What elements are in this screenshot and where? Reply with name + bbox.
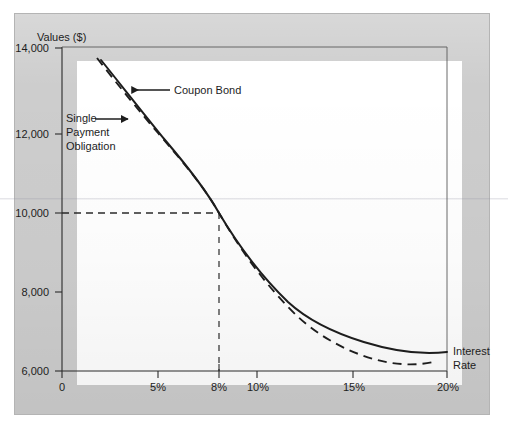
x-tick-label-20: 20% <box>430 381 466 394</box>
series-coupon-bond <box>101 60 447 353</box>
y-tick-label-8000: 8,000 <box>0 286 49 299</box>
chart-vector-overlay <box>0 0 508 436</box>
y-tick-label-10000: 10,000 <box>0 207 49 220</box>
x-tick-label-8: 8% <box>204 381 234 394</box>
annotation-spo-line3: Obligation <box>66 140 116 154</box>
annotation-spo-line2: Payment <box>66 126 109 140</box>
x-tick-label-0: 0 <box>47 381 77 394</box>
x-axis-title-line2: Rate <box>453 359 476 372</box>
x-tick-label-10: 10% <box>240 381 276 394</box>
x-tick-label-5: 5% <box>143 381 173 394</box>
series-single-payment-obligation <box>97 58 437 364</box>
x-axis-title-line1: Interest <box>453 345 490 358</box>
y-tick-label-6000: 6,000 <box>0 365 49 378</box>
x-tick-label-15: 15% <box>336 381 372 394</box>
annotation-spo-line1: Single <box>66 112 97 126</box>
chart-figure: Values ($) 14,000 12,000 10,000 8,000 6,… <box>0 0 508 436</box>
y-tick-label-12000: 12,000 <box>0 128 49 141</box>
annotation-coupon-bond: Coupon Bond <box>174 84 241 98</box>
y-tick-label-14000: 14,000 <box>0 42 49 55</box>
